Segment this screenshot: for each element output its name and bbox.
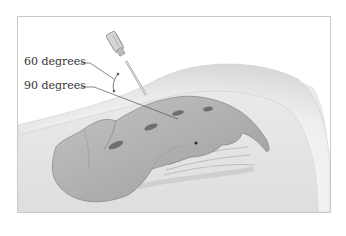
label-60-degrees: 60 degrees [24, 55, 86, 68]
sacrum-needle-illustration [18, 17, 330, 212]
angle-arc [113, 73, 119, 92]
label-90-degrees: 90 degrees [24, 79, 86, 92]
needle [106, 31, 146, 95]
illustration-frame: 60 degrees 90 degrees [17, 16, 331, 213]
